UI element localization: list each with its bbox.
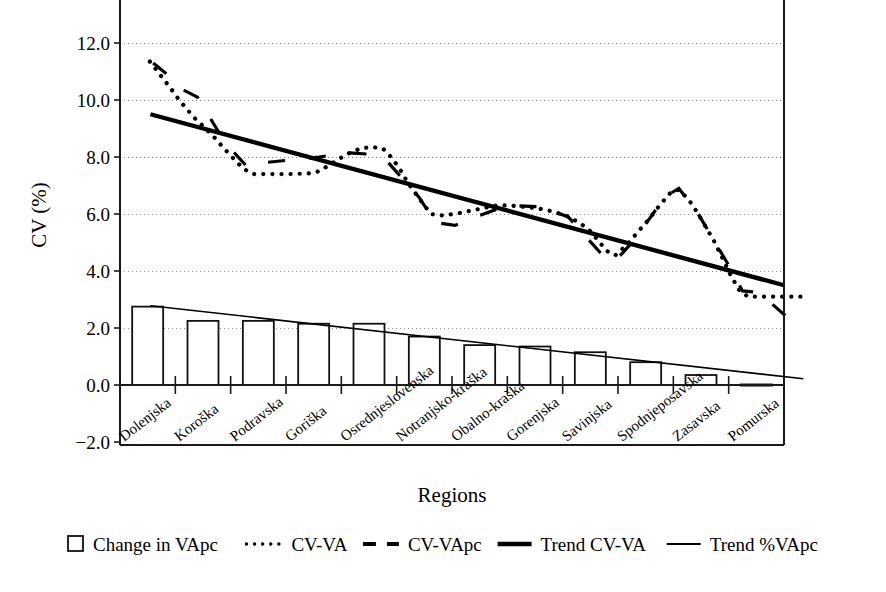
y-tick-label: 0.0 (86, 375, 110, 396)
bar-koro-ka (188, 321, 219, 385)
legend-marker-open-square (68, 536, 83, 551)
chart-figure: −2.00.02.04.06.08.010.012.0 DolenjskaKor… (0, 0, 886, 592)
plot-background (120, 0, 784, 385)
y-tick-label: 6.0 (86, 204, 110, 225)
x-category-label-podravska: Podravska (227, 393, 286, 444)
bar-osrednjeslovenska (354, 324, 385, 385)
x-category-label-dolenjska: Dolenjska (116, 394, 174, 444)
y-tick-label: 8.0 (86, 147, 110, 168)
bar-spodnjeposavska (630, 362, 661, 385)
bar-dolenjska (132, 307, 163, 385)
bar-savinjska (575, 352, 606, 385)
y-tick-label: 4.0 (86, 261, 110, 282)
y-tick-labels-group: −2.00.02.04.06.08.010.012.0 (76, 33, 120, 453)
legend-label-trend-vapc: Trend %VApc (710, 534, 818, 555)
x-category-label-savinjska: Savinjska (559, 396, 615, 445)
y-axis-title: CV (%) (27, 182, 51, 248)
y-tick-label: 12.0 (77, 33, 110, 54)
y-tick-label: −2.0 (76, 432, 110, 453)
x-axis-title: Regions (418, 483, 487, 507)
x-category-label-koro-ka: Koroška (171, 400, 221, 444)
y-tick-label: 2.0 (86, 318, 110, 339)
y-tick-label: 10.0 (77, 90, 110, 111)
legend-label-change-in-vapc: Change in VApc (93, 534, 218, 555)
cv-regions-chart: −2.00.02.04.06.08.010.012.0 DolenjskaKor… (0, 0, 886, 592)
legend-label-cv-va: CV-VA (291, 534, 347, 555)
legend-label-trend-cv-va: Trend CV-VA (541, 534, 647, 555)
bar-podravska (243, 321, 274, 385)
x-category-label-gori-ka: Goriška (282, 402, 330, 444)
x-category-label-pomurska: Pomurska (725, 395, 782, 445)
bar-gorenjska (520, 347, 551, 385)
x-category-label-zasavska: Zasavska (669, 397, 723, 444)
legend-group: Change in VApcCV-VACV-VApcTrend CV-VATre… (68, 534, 818, 555)
bar-gori-ka (298, 324, 329, 385)
legend-label-cv-vapc: CV-VApc (408, 534, 482, 555)
